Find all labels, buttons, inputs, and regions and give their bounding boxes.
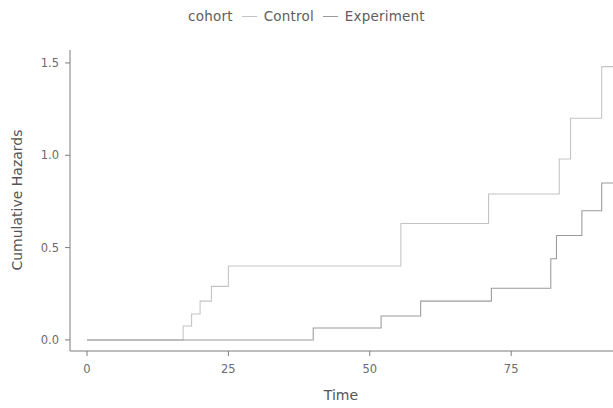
x-axis: 0255075 Time <box>70 351 613 403</box>
y-tick-label: 1.0 <box>41 148 59 162</box>
y-tick-label: 0.0 <box>41 333 59 347</box>
x-axis-title: Time <box>323 387 358 403</box>
x-tick-label: 0 <box>83 362 90 376</box>
cumulative-hazards-chart: cohort Control Experiment 0.00.51.01.5 C… <box>0 0 613 408</box>
series-group <box>87 67 613 340</box>
y-tick-label: 1.5 <box>41 56 59 70</box>
plot-area: 0.00.51.01.5 Cumulative Hazards 0255075 … <box>0 0 613 408</box>
y-tick-label: 0.5 <box>41 241 59 255</box>
x-tick-label: 50 <box>362 362 377 376</box>
y-axis-title: Cumulative Hazards <box>9 129 25 270</box>
series-line-experiment <box>87 183 613 340</box>
series-line-control <box>87 67 613 340</box>
y-axis: 0.00.51.01.5 Cumulative Hazards <box>9 50 70 351</box>
x-tick-group: 0255075 <box>83 351 518 376</box>
x-tick-label: 25 <box>221 362 236 376</box>
x-tick-label: 75 <box>504 362 519 376</box>
y-tick-group: 0.00.51.01.5 <box>41 56 70 347</box>
